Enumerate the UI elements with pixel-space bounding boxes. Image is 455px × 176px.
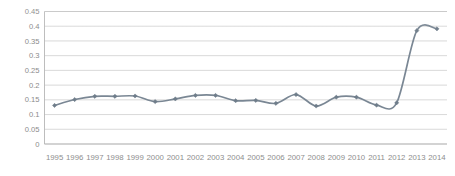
x-tick-label: 2003	[207, 153, 224, 162]
y-tick-label: 0.45	[25, 7, 40, 16]
data-point-marker	[334, 95, 338, 99]
data-point-marker	[93, 94, 97, 98]
axis-lines	[45, 12, 448, 145]
data-point-marker	[173, 97, 177, 101]
x-tick-label: 1996	[66, 153, 83, 162]
data-point-marker	[52, 103, 56, 107]
x-axis-tick-labels: 1995199619971998199920002001200220032004…	[46, 153, 446, 162]
y-tick-label: 0.35	[25, 37, 40, 46]
data-series-line	[55, 25, 437, 109]
y-tick-label: 0.15	[25, 95, 40, 104]
x-tick-label: 2011	[368, 153, 385, 162]
x-tick-label: 2014	[428, 153, 446, 162]
x-tick-label: 2004	[227, 153, 245, 162]
data-point-marker	[213, 93, 217, 97]
x-tick-label: 1997	[86, 153, 103, 162]
x-tick-label: 2005	[247, 153, 265, 162]
x-tick-label: 2000	[147, 153, 165, 162]
line-chart-figure: 00.050.10.150.20.250.30.350.40.45 199519…	[0, 0, 455, 176]
y-tick-label: 0.25	[25, 66, 40, 75]
gridlines-group	[45, 12, 448, 145]
y-axis-tick-labels: 00.050.10.150.20.250.30.350.40.45	[25, 7, 40, 149]
x-tick-label: 2008	[308, 153, 325, 162]
chart-canvas: 00.050.10.150.20.250.30.350.40.45 199519…	[0, 0, 455, 176]
data-point-marker	[73, 97, 77, 101]
y-tick-label: 0.1	[29, 110, 40, 119]
data-point-marker	[294, 92, 298, 96]
y-tick-label: 0	[35, 140, 39, 149]
data-point-marker	[354, 95, 358, 99]
x-tick-label: 2001	[167, 153, 184, 162]
data-point-marker	[193, 93, 197, 97]
series-line-path	[55, 25, 437, 109]
data-point-marker	[113, 94, 117, 98]
x-tick-label: 2013	[408, 153, 425, 162]
x-tick-label: 2010	[348, 153, 366, 162]
data-point-marker	[274, 101, 278, 105]
x-tick-label: 1998	[106, 153, 123, 162]
data-point-marker	[435, 27, 439, 31]
data-point-marker	[374, 103, 378, 107]
y-tick-label: 0.05	[25, 125, 40, 134]
data-point-marker	[234, 99, 238, 103]
y-tick-label: 0.2	[29, 81, 40, 90]
y-tick-label: 0.3	[29, 51, 40, 60]
x-tick-label: 2009	[328, 153, 345, 162]
x-tick-label: 1999	[126, 153, 143, 162]
x-tick-label: 1995	[46, 153, 64, 162]
data-point-marker	[254, 98, 258, 102]
x-tick-label: 2007	[287, 153, 304, 162]
x-tick-label: 2006	[267, 153, 284, 162]
x-tick-label: 2012	[388, 153, 405, 162]
data-point-marker	[133, 94, 137, 98]
data-point-marker	[314, 104, 318, 108]
y-tick-label: 0.4	[29, 22, 40, 31]
x-tick-label: 2002	[187, 153, 204, 162]
